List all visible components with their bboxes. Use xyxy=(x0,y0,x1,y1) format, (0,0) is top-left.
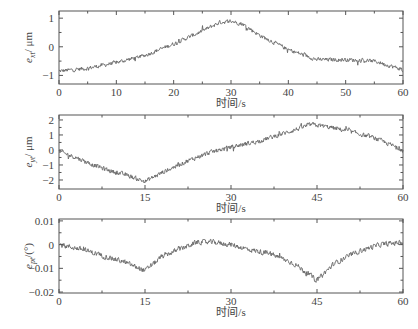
x-tick-label: 60 xyxy=(398,191,410,203)
x-axis-title: 时间/s xyxy=(216,306,245,318)
y-tick-label: 2 xyxy=(49,114,55,126)
y-axis-title: ept/(°) xyxy=(22,243,37,269)
x-tick-label: 40 xyxy=(283,86,295,98)
x-tick-label: 60 xyxy=(398,295,410,307)
y-tick-label: −2 xyxy=(42,174,54,186)
panel-y-error: 015304560−2−1012时间/seyt/ μm xyxy=(22,114,409,214)
y-tick-label: 1 xyxy=(49,129,55,141)
y-axis-title: ext/ μm xyxy=(22,32,37,63)
y-tick-label: 0.01 xyxy=(35,215,54,227)
panel-pitch-error: 015304560−0.02−0.0100.01时间/sept/(°) xyxy=(22,215,409,318)
figure: 0102030405060−101时间/sext/ μm 015304560−2… xyxy=(0,0,418,329)
y-axis-title: eyt/ μm xyxy=(22,136,37,167)
x-tick-label: 20 xyxy=(168,86,180,98)
x-tick-label: 15 xyxy=(140,191,152,203)
y-tick-label: −1 xyxy=(42,159,54,171)
y-tick-label: 0 xyxy=(49,41,55,53)
x-tick-label: 45 xyxy=(312,295,324,307)
signal-trace xyxy=(59,239,403,282)
y-tick-label: 0 xyxy=(49,144,55,156)
x-tick-label: 0 xyxy=(56,295,62,307)
signal-trace xyxy=(59,122,403,182)
y-tick-label: 1 xyxy=(49,12,55,24)
y-tick-label: −1 xyxy=(42,69,54,81)
x-axis-title: 时间/s xyxy=(216,97,245,109)
x-tick-label: 45 xyxy=(312,191,324,203)
y-tick-label: −0.02 xyxy=(29,286,54,298)
x-tick-label: 60 xyxy=(398,86,410,98)
x-axis-title: 时间/s xyxy=(216,202,245,214)
y-tick-label: 0 xyxy=(49,239,55,251)
x-tick-label: 50 xyxy=(340,86,352,98)
x-tick-label: 15 xyxy=(140,295,152,307)
panel-x-error: 0102030405060−101时间/sext/ μm xyxy=(22,11,409,109)
signal-trace xyxy=(59,20,403,72)
axes-frame xyxy=(59,115,403,189)
x-tick-label: 0 xyxy=(56,191,62,203)
x-tick-label: 10 xyxy=(111,86,123,98)
x-tick-label: 0 xyxy=(56,86,62,98)
